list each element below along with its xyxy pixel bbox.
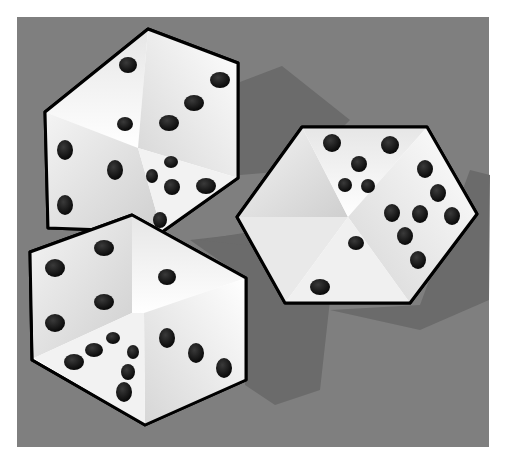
dice-illustration [0,0,505,463]
